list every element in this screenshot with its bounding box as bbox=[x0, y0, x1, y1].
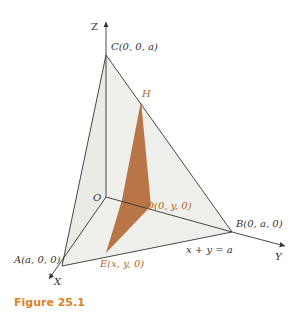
point-c-label: C(0, 0, a) bbox=[111, 41, 158, 52]
tetrahedron-diagram: Z C(0, 0, a) H O D(0, y, 0) B(0, a, 0) x… bbox=[0, 0, 303, 317]
x-axis-label: X bbox=[53, 276, 62, 287]
y-axis-label: Y bbox=[275, 251, 283, 262]
face-front bbox=[62, 55, 232, 266]
z-axis-label: Z bbox=[91, 21, 98, 32]
point-a-label: A(a, 0, 0) bbox=[13, 254, 61, 265]
line-equation-label: x + y = a bbox=[186, 244, 233, 255]
point-o-label: O bbox=[93, 192, 101, 203]
y-axis bbox=[232, 232, 285, 246]
point-e-label: E(x, y, 0) bbox=[99, 258, 144, 269]
point-b-label: B(0, a, 0) bbox=[235, 218, 283, 229]
figure-caption: Figure 25.1 bbox=[14, 296, 85, 309]
point-d-label: D(0, y, 0) bbox=[145, 200, 192, 211]
point-h-label: H bbox=[141, 88, 151, 99]
